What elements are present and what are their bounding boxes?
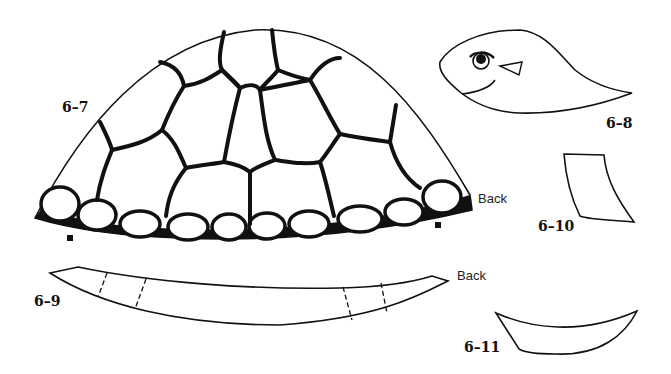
piece-leg	[564, 154, 634, 222]
registration-mark-left	[67, 235, 73, 241]
label-6-9: 6–9	[34, 293, 60, 309]
piece-shell	[35, 30, 472, 241]
label-6-10: 6–10	[538, 218, 574, 234]
piece-band	[50, 267, 448, 325]
pattern-sheet: 6–7 Back 6–8 6–10 6–9 Back 6–11	[0, 0, 671, 374]
piece-head	[440, 30, 632, 113]
leg-outline	[564, 154, 634, 222]
label-6-8: 6–8	[606, 115, 632, 131]
registration-mark-right	[435, 222, 441, 228]
band-outline	[50, 267, 448, 325]
label-back-shell: Back	[478, 191, 507, 206]
head-outline	[440, 30, 632, 113]
label-6-11: 6–11	[464, 339, 500, 355]
label-back-band: Back	[457, 268, 486, 283]
label-6-7: 6–7	[62, 99, 88, 115]
tail-outline	[496, 311, 637, 354]
piece-tail	[496, 311, 637, 354]
